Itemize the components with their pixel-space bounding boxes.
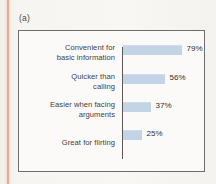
bar-category-label: Easier when facing arguments <box>29 100 115 119</box>
bar-category-label-line: Quicker than <box>71 72 115 81</box>
bar-category-label-line: Convenient for <box>65 43 115 52</box>
figure-page: (a) Convenient for basic information 79%… <box>0 0 216 184</box>
bar-row: Convenient for basic information 79% <box>19 43 204 71</box>
bar-value-label: 79% <box>187 44 203 54</box>
panel-label: (a) <box>19 14 30 23</box>
bar-value-label: 37% <box>156 101 172 111</box>
bar-category-label-line: Easier when facing <box>50 100 115 109</box>
bar-track: 37% <box>123 102 202 111</box>
bar-category-label: Quicker than calling <box>29 72 115 91</box>
bar-category-label: Convenient for basic information <box>29 43 115 62</box>
bar-track: 56% <box>123 74 202 83</box>
chart-frame: Convenient for basic information 79% Qui… <box>18 30 205 172</box>
plot-area: Convenient for basic information 79% Qui… <box>19 31 204 171</box>
bar-track: 25% <box>123 130 202 139</box>
bar <box>123 102 151 112</box>
bar <box>123 45 182 55</box>
bar <box>123 74 165 84</box>
bar-row: Great for flirting 25% <box>19 128 204 156</box>
scan-stripe <box>7 0 9 184</box>
bar-category-label: Great for flirting <box>29 138 115 148</box>
bar-category-label-line: calling <box>93 82 115 91</box>
bar-category-label-line: Great for flirting <box>62 138 115 147</box>
bar-row: Quicker than calling 56% <box>19 72 204 100</box>
bar-row: Easier when facing arguments 37% <box>19 100 204 128</box>
bar-category-label-line: basic information <box>57 53 115 62</box>
bar-category-label-line: arguments <box>79 110 115 119</box>
bar <box>123 130 142 140</box>
bar-value-label: 25% <box>147 129 163 139</box>
bar-value-label: 56% <box>170 73 186 83</box>
bar-track: 79% <box>123 45 202 54</box>
